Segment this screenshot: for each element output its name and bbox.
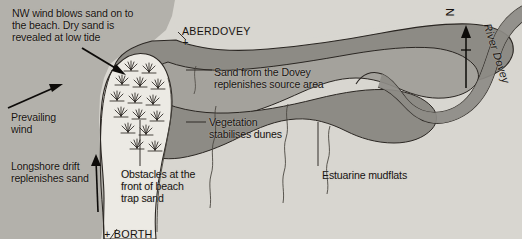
settlement-cross-marker-icon: +: [182, 36, 188, 48]
label-vegetation: Vegetation stabilises dunes: [209, 116, 282, 140]
label-estuarine-mudflats: Estuarine mudflats: [322, 169, 407, 181]
label-obstacles: Obstacles at the front of beach trap san…: [121, 168, 195, 205]
label-sand-from-dovey: Sand from the Dovey replenishes source a…: [214, 66, 324, 90]
label-prevailing-wind: Prevailing wind: [11, 111, 56, 135]
label-longshore-drift: Longshore drift replenishes sand: [11, 160, 89, 184]
label-nw-wind: NW wind blows sand on to the beach. Dry …: [12, 7, 133, 44]
label-north: N: [444, 8, 456, 17]
label-aberdovey: ABERDOVEY: [182, 25, 251, 37]
coastal-dune-diagram: NW wind blows sand on to the beach. Dry …: [0, 0, 522, 251]
label-borth: + BORTH: [104, 228, 153, 240]
